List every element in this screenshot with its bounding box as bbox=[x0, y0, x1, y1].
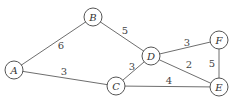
edge-weight-a-b: 6 bbox=[58, 40, 64, 51]
node-c: C bbox=[107, 77, 125, 95]
edge-weight-d-f: 3 bbox=[184, 37, 190, 48]
node-label: E bbox=[214, 82, 223, 93]
node-label: A bbox=[9, 65, 17, 76]
edge-weight-f-e: 5 bbox=[209, 58, 215, 69]
node-label: D bbox=[146, 51, 155, 62]
node-a: A bbox=[5, 61, 23, 79]
edge-weight-d-e: 2 bbox=[186, 59, 192, 70]
edge-weight-c-d: 3 bbox=[129, 61, 135, 72]
graph-diagram: 63534325 ABCDFE bbox=[0, 0, 242, 107]
edges bbox=[14, 17, 219, 87]
node-f: F bbox=[210, 31, 228, 49]
node-d: D bbox=[142, 47, 160, 65]
node-e: E bbox=[210, 78, 228, 96]
node-label: C bbox=[112, 81, 120, 92]
edge-weights: 63534325 bbox=[58, 25, 215, 86]
edge-weight-b-d: 5 bbox=[122, 25, 128, 36]
edge-weight-a-c: 3 bbox=[61, 66, 67, 77]
node-b: B bbox=[84, 8, 102, 26]
edge-weight-c-e: 4 bbox=[166, 75, 172, 86]
edge-b-d bbox=[93, 17, 151, 56]
edge-a-b bbox=[14, 17, 93, 70]
node-label: B bbox=[88, 12, 96, 23]
node-label: F bbox=[215, 35, 224, 46]
edge-c-e bbox=[116, 86, 219, 87]
nodes: ABCDFE bbox=[5, 8, 228, 96]
